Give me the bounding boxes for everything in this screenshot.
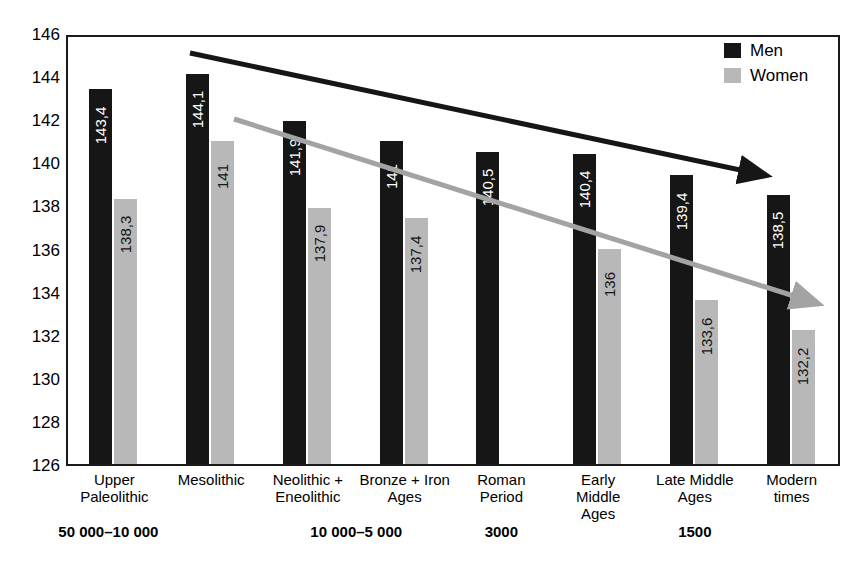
bar-value-label: 138,5 xyxy=(770,212,787,250)
bar-men: 144,1 xyxy=(186,74,209,464)
y-axis-tick-label: 144 xyxy=(14,69,60,86)
bar-value-label: 140,4 xyxy=(576,171,593,209)
y-axis-tick-label: 140 xyxy=(14,155,60,172)
legend-item-men[interactable]: Men xyxy=(724,40,828,61)
category-label-line: Ages xyxy=(538,505,658,522)
bar-men: 139,4 xyxy=(670,175,693,464)
bar-women: 133,6 xyxy=(695,300,718,464)
period-range-label: 3000 xyxy=(411,523,591,540)
y-axis-tick-label: 130 xyxy=(14,371,60,388)
bar-men: 138,5 xyxy=(767,195,790,464)
bar-men: 140,4 xyxy=(573,154,596,464)
legend-item-women[interactable]: Women xyxy=(724,65,828,86)
category-label: Moderntimes xyxy=(732,471,852,505)
bar-women: 132,2 xyxy=(792,330,815,464)
bar-value-label: 141 xyxy=(383,164,400,189)
bar-value-label: 144,1 xyxy=(189,91,206,129)
y-axis-tick-label: 132 xyxy=(14,328,60,345)
y-axis-tick-label: 136 xyxy=(14,242,60,259)
bar-value-label: 137,9 xyxy=(311,225,328,263)
bar-women: 138,3 xyxy=(114,199,137,464)
bar-men: 140,5 xyxy=(476,152,499,464)
category-label-line: Paleolithic xyxy=(54,488,174,505)
legend-swatch-women-icon xyxy=(724,68,741,83)
bar-value-label: 133,6 xyxy=(698,317,715,355)
bar-value-label: 141 xyxy=(214,164,231,189)
legend-label-women: Women xyxy=(750,67,808,84)
period-range-label: 50 000–10 000 xyxy=(18,523,198,540)
y-axis-tick-label: 128 xyxy=(14,414,60,431)
plot-area: 143,4138,3144,1141141,9137,9141137,4140,… xyxy=(66,35,840,466)
y-axis-tick-label: 142 xyxy=(14,112,60,129)
legend: Men Women xyxy=(724,40,828,90)
bar-value-label: 132,2 xyxy=(795,348,812,386)
period-range-label: 1500 xyxy=(605,523,785,540)
y-axis-tick-label: 146 xyxy=(14,26,60,43)
bar-value-label: 143,4 xyxy=(92,106,109,144)
bar-value-label: 140,5 xyxy=(479,169,496,207)
bar-women: 136 xyxy=(598,249,621,465)
legend-label-men: Men xyxy=(750,42,783,59)
category-label-line: Modern xyxy=(732,471,852,488)
bar-value-label: 137,4 xyxy=(408,236,425,274)
bar-men: 141 xyxy=(380,141,403,464)
bar-women: 137,4 xyxy=(405,218,428,464)
bar-value-label: 139,4 xyxy=(673,192,690,230)
bar-value-label: 141,9 xyxy=(286,139,303,177)
bar-men: 143,4 xyxy=(89,89,112,464)
legend-swatch-men-icon xyxy=(724,43,741,58)
bar-women: 141 xyxy=(211,141,234,464)
category-label-line: times xyxy=(732,488,852,505)
y-axis: 146144142140138136134132130128126 xyxy=(8,35,60,466)
y-axis-tick-label: 126 xyxy=(14,457,60,474)
y-axis-tick-label: 134 xyxy=(14,285,60,302)
bar-men: 141,9 xyxy=(283,121,306,464)
bar-value-label: 136 xyxy=(601,272,618,297)
y-axis-tick-label: 138 xyxy=(14,198,60,215)
chart-container: 146144142140138136134132130128126 143,41… xyxy=(0,0,861,564)
bar-value-label: 138,3 xyxy=(117,216,134,254)
bar-women: 137,9 xyxy=(308,208,331,464)
